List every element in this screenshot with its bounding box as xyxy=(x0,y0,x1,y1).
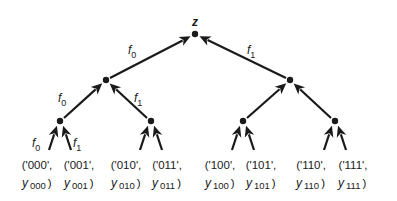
edge-line xyxy=(247,89,280,118)
edge-label-sub: 1 xyxy=(76,143,81,153)
leaf-value-sub: 000 xyxy=(30,180,46,191)
leaf-value-sub: 100 xyxy=(213,180,229,191)
leaf-value-sub: 101 xyxy=(254,180,270,191)
edge-line xyxy=(157,134,162,150)
edge-label-sub: 1 xyxy=(137,98,142,108)
edge-leaf-right xyxy=(62,126,72,150)
leaf-value-name: y xyxy=(110,176,118,190)
edge-line xyxy=(249,134,254,150)
leaf-value: y101) xyxy=(245,176,276,191)
edge-l2-right xyxy=(294,83,331,118)
leaf-value-sub: 111 xyxy=(346,180,360,191)
edge-line xyxy=(232,134,237,150)
leaf-value-name: y xyxy=(337,176,345,190)
edge-label-sub: 0 xyxy=(35,143,40,153)
leaf-key: ('001', xyxy=(64,159,95,171)
leaf-key: ('100', xyxy=(205,159,236,171)
internal-node xyxy=(57,118,63,124)
edge-label-sub: 0 xyxy=(61,98,66,108)
leaves-group: ('000',y000)('001',y001)('010',y010)('01… xyxy=(21,159,367,191)
leaf-label: ('000',y000) xyxy=(21,159,52,191)
edge-l2-left xyxy=(247,83,286,118)
leaf-close-paren: ) xyxy=(177,177,181,189)
leaf-key: ('111', xyxy=(339,159,368,171)
leaf-value-name: y xyxy=(204,176,212,190)
edge-label-l1-right: f1 xyxy=(247,43,255,60)
edge-label-sub: 1 xyxy=(250,50,255,60)
internal-node xyxy=(240,118,246,124)
leaf-label: ('100',y100) xyxy=(204,159,235,191)
internal-node xyxy=(103,77,109,83)
edge-line xyxy=(140,134,145,150)
leaf-value: y111) xyxy=(337,176,366,191)
edges-group xyxy=(49,36,346,150)
leaf-value-sub: 010 xyxy=(119,180,135,191)
leaf-label: ('001',y001) xyxy=(63,159,94,191)
leaf-value: y011) xyxy=(151,176,181,191)
edge-l2-left xyxy=(64,83,102,118)
leaf-value-name: y xyxy=(151,176,159,190)
root-label: z xyxy=(191,15,198,29)
leaf-value: y010) xyxy=(110,176,141,191)
leaf-label: ('011',y011) xyxy=(151,159,182,191)
leaf-key: ('010', xyxy=(111,159,142,171)
leaf-value: y000) xyxy=(21,176,52,191)
edge-leaf-right xyxy=(153,126,163,150)
leaf-value: y110) xyxy=(295,176,325,191)
leaf-value-name: y xyxy=(245,176,253,190)
leaf-label: ('101',y101) xyxy=(245,159,276,191)
edge-label-l2-right: f1 xyxy=(134,91,142,108)
edge-leaf-left xyxy=(232,126,242,150)
leaf-label: ('110',y110) xyxy=(295,159,326,191)
leaf-label: ('111',y111) xyxy=(337,159,367,191)
internal-node xyxy=(287,77,293,83)
leaf-value-name: y xyxy=(21,176,29,190)
edge-label-l2-left: f0 xyxy=(58,91,66,108)
root-node xyxy=(192,31,198,37)
leaf-close-paren: ) xyxy=(362,177,366,189)
leaf-key: ('000', xyxy=(22,159,53,171)
leaf-value: y100) xyxy=(204,176,235,191)
edge-label-l1-left: f0 xyxy=(128,43,136,60)
edge-leaf-right xyxy=(337,126,347,150)
edge-label-l3-left: f0 xyxy=(32,136,40,153)
leaf-value-name: y xyxy=(295,176,303,190)
binary-tree-diagram: z f0 f1 f0 f1 f0 f1 ('000',y000)('001',y… xyxy=(0,0,397,201)
edge-line xyxy=(64,89,96,118)
edge-leaf-left xyxy=(324,126,334,150)
leaf-value-sub: 011 xyxy=(160,180,175,191)
edge-line xyxy=(341,134,346,150)
edge-label-sub: 0 xyxy=(131,50,136,60)
edge-label-l3-right: f1 xyxy=(73,136,81,153)
edge-line xyxy=(300,90,331,118)
internal-node xyxy=(332,118,338,124)
leaf-close-paren: ) xyxy=(137,177,141,189)
edge-l1-left xyxy=(110,36,191,78)
leaf-key: ('101', xyxy=(246,159,277,171)
leaf-close-paren: ) xyxy=(48,177,52,189)
edge-leaf-right xyxy=(245,126,255,150)
leaf-label: ('010',y010) xyxy=(110,159,141,191)
leaf-close-paren: ) xyxy=(231,177,235,189)
leaf-close-paren: ) xyxy=(90,177,94,189)
leaf-close-paren: ) xyxy=(272,177,276,189)
edge-l1-right xyxy=(200,36,286,78)
leaf-close-paren: ) xyxy=(321,177,325,189)
leaf-key: ('110', xyxy=(296,159,326,171)
edge-line xyxy=(66,134,71,150)
edge-leaf-left xyxy=(49,126,59,150)
nodes-group xyxy=(57,31,338,124)
edge-line xyxy=(49,134,54,150)
internal-node xyxy=(148,118,154,124)
leaf-value-sub: 001 xyxy=(72,180,88,191)
leaf-value-sub: 110 xyxy=(304,180,319,191)
edge-line xyxy=(110,40,183,78)
edge-leaf-left xyxy=(140,126,150,150)
leaf-key: ('011', xyxy=(152,159,182,171)
edge-line xyxy=(324,134,329,150)
edge-line xyxy=(116,90,147,118)
leaf-value-name: y xyxy=(63,176,71,190)
leaf-value: y001) xyxy=(63,176,94,191)
